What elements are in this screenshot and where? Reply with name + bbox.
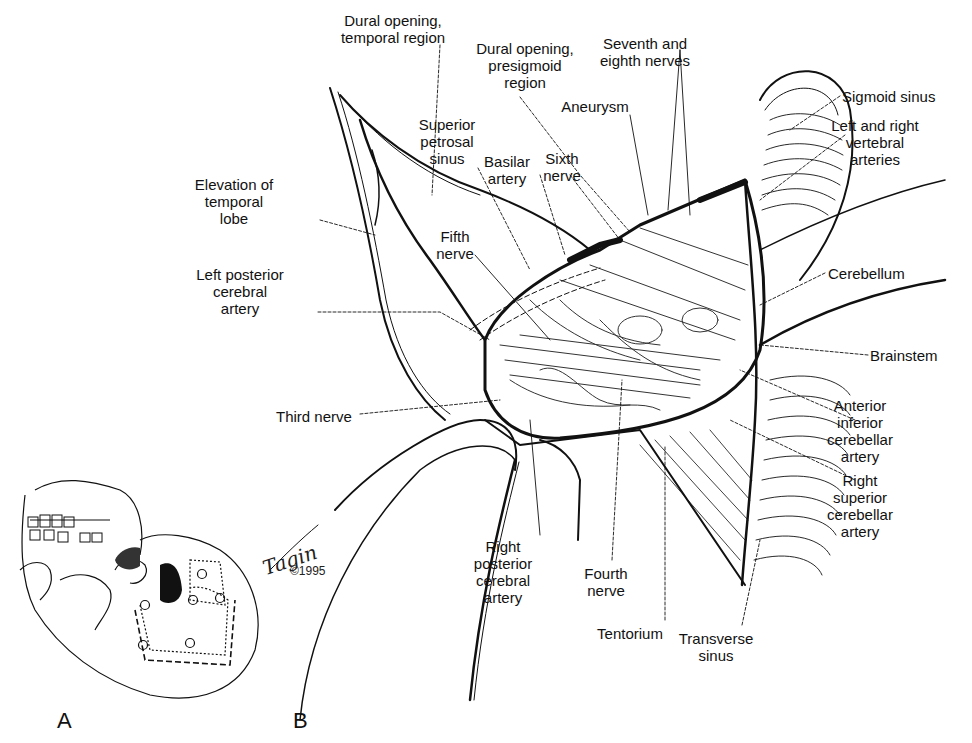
surgical-illustration: Dural opening, temporal regionDural open…: [0, 0, 972, 743]
label-right-superior-cerebellar-artery: Right superior cerebellar artery: [827, 472, 893, 540]
label-tentorium: Tentorium: [597, 625, 663, 642]
label-right-posterior-cerebral-artery: Right posterior cerebral artery: [474, 538, 532, 606]
label-brainstem: Brainstem: [870, 347, 938, 364]
label-fifth-nerve: Fifth nerve: [436, 228, 474, 262]
shaded-opening: [160, 563, 182, 603]
panel-label-a: A: [57, 708, 72, 734]
label-elevation-temporal-lobe: Elevation of temporal lobe: [195, 176, 273, 227]
label-superior-petrosal-sinus: Superior petrosal sinus: [419, 116, 476, 167]
panel-label-b: B: [293, 708, 308, 734]
label-basilar-artery: Basilar artery: [484, 153, 530, 187]
label-seventh-eighth-nerves: Seventh and eighth nerves: [600, 35, 690, 69]
label-dural-opening-temporal: Dural opening, temporal region: [341, 12, 445, 46]
label-anterior-inferior-cerebellar-artery: Anterior inferior cerebellar artery: [827, 397, 893, 465]
label-vertebral-arteries: Left and right vertebral arteries: [831, 117, 919, 168]
illustration-line-art: [0, 0, 972, 743]
label-left-posterior-cerebral-artery: Left posterior cerebral artery: [196, 266, 284, 317]
label-cerebellum: Cerebellum: [828, 265, 905, 282]
label-aneurysm: Aneurysm: [561, 98, 629, 115]
label-transverse-sinus: Transverse sinus: [679, 630, 753, 664]
copyright-notice: ©1995: [290, 564, 326, 578]
label-fourth-nerve: Fourth nerve: [584, 565, 627, 599]
label-dural-opening-presigmoid: Dural opening, presigmoid region: [476, 40, 574, 91]
label-sigmoid-sinus: Sigmoid sinus: [842, 88, 935, 105]
label-third-nerve: Third nerve: [276, 408, 352, 425]
skull-sketch: [20, 481, 258, 698]
label-sixth-nerve: Sixth nerve: [543, 150, 581, 184]
